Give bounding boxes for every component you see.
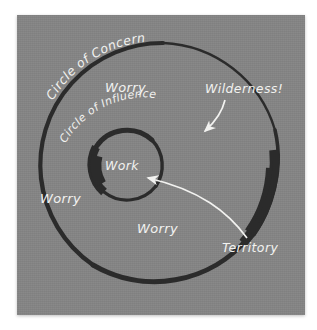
label-work: Work	[105, 158, 139, 173]
label-worry-top: Worry	[105, 80, 146, 95]
label-worry-left: Worry	[40, 191, 81, 206]
wilderness-arrow	[205, 100, 225, 131]
label-worry-bottom: Worry	[137, 221, 178, 236]
label-wilderness: Wilderness!	[205, 81, 283, 96]
diagram-artwork: Circle of Concern Circle of Influence Wo…	[0, 0, 317, 330]
diagram-canvas: Circle of Concern Circle of Influence Wo…	[0, 0, 317, 330]
label-territory: Territory	[222, 240, 278, 255]
